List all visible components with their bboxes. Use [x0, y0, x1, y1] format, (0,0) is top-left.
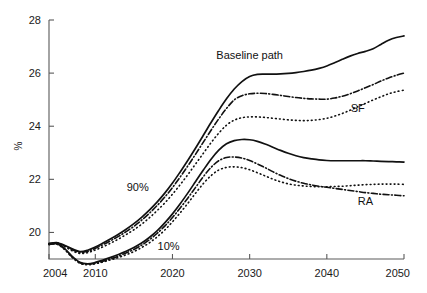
x-tick-label: 2004 [43, 267, 67, 279]
series-line [49, 157, 404, 264]
y-axis-tick-labels: 2022242628 [29, 14, 41, 238]
x-tick-label: 2040 [315, 267, 339, 279]
chart-annotation-label: 90% [127, 181, 149, 193]
y-tick-label: 28 [29, 14, 41, 26]
chart-annotation-label: SF [351, 102, 365, 114]
series-curves [49, 36, 404, 265]
chart-container: 2022242628 200420102020203020402050 % Ba… [0, 0, 427, 293]
x-tick-label: 2050 [386, 267, 410, 279]
y-axis-title: % [13, 141, 24, 150]
y-tick-label: 26 [29, 67, 41, 79]
chart-annotation-label: RA [358, 195, 374, 207]
y-axis-ticks [49, 20, 54, 232]
chart-annotation-label: 10% [158, 240, 180, 252]
series-line [49, 167, 404, 265]
x-tick-label: 2020 [160, 267, 184, 279]
chart-annotations: Baseline pathSFRA90%10% [127, 49, 374, 252]
y-tick-label: 22 [29, 173, 41, 185]
line-chart-figure: 2022242628 200420102020203020402050 % Ba… [0, 0, 427, 293]
x-tick-label: 2030 [237, 267, 261, 279]
x-tick-label: 2010 [83, 267, 107, 279]
y-tick-label: 24 [29, 120, 41, 132]
x-axis-tick-labels: 200420102020203020402050 [43, 267, 410, 279]
chart-annotation-label: Baseline path [216, 49, 283, 61]
y-tick-label: 20 [29, 226, 41, 238]
x-axis-ticks [49, 254, 404, 259]
series-line [49, 90, 404, 253]
